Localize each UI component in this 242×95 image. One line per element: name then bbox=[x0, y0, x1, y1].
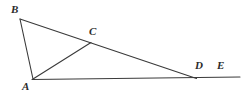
point-label-b: B bbox=[11, 4, 18, 15]
geometry-canvas bbox=[0, 0, 242, 95]
segment-ab bbox=[20, 19, 33, 79]
segment-ac bbox=[33, 43, 91, 80]
point-label-c: C bbox=[89, 26, 96, 37]
point-label-d: D bbox=[195, 60, 203, 71]
segment-bd bbox=[20, 19, 197, 79]
geometry-figure: B C A D E bbox=[0, 0, 242, 95]
segment-ae bbox=[32, 77, 240, 80]
point-label-e: E bbox=[217, 60, 224, 71]
point-label-a: A bbox=[22, 81, 29, 92]
